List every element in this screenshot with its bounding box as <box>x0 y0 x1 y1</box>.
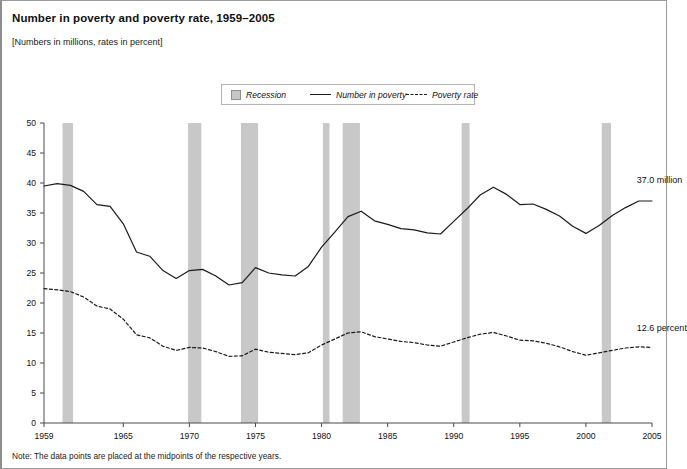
y-axis-label: 5 <box>10 388 36 398</box>
y-axis-label: 20 <box>10 298 36 308</box>
x-axis-label: 1995 <box>510 431 529 441</box>
x-axis-label: 1970 <box>180 431 199 441</box>
y-axis-label: 15 <box>10 328 36 338</box>
y-axis-label: 50 <box>10 118 36 128</box>
x-axis-label: 1959 <box>34 431 53 441</box>
y-axis-label: 25 <box>10 268 36 278</box>
chart-note: Note: The data points are placed at the … <box>12 451 281 461</box>
x-axis-label: 1965 <box>114 431 133 441</box>
recession-band <box>462 123 470 423</box>
recession-band <box>343 123 360 423</box>
y-axis-label: 40 <box>10 178 36 188</box>
chart-plot-area <box>2 1 669 469</box>
y-axis-label: 30 <box>10 238 36 248</box>
recession-band <box>63 123 74 423</box>
y-axis-label: 0 <box>10 418 36 428</box>
x-axis-label: 1985 <box>378 431 397 441</box>
x-axis-label: 1990 <box>444 431 463 441</box>
y-axis-label: 35 <box>10 208 36 218</box>
recession-band <box>602 123 611 423</box>
recession-band <box>188 123 201 423</box>
x-axis-label: 2005 <box>642 431 661 441</box>
x-axis-label: 1975 <box>246 431 265 441</box>
recession-band <box>323 123 330 423</box>
annotation-poverty-rate: 12.6 percent <box>637 323 687 333</box>
recession-band <box>241 123 258 423</box>
y-axis-label: 10 <box>10 358 36 368</box>
y-axis-label: 45 <box>10 148 36 158</box>
x-axis-label: 2000 <box>576 431 595 441</box>
x-axis-label: 1980 <box>312 431 331 441</box>
annotation-number-in-poverty: 37.0 million <box>637 175 683 185</box>
